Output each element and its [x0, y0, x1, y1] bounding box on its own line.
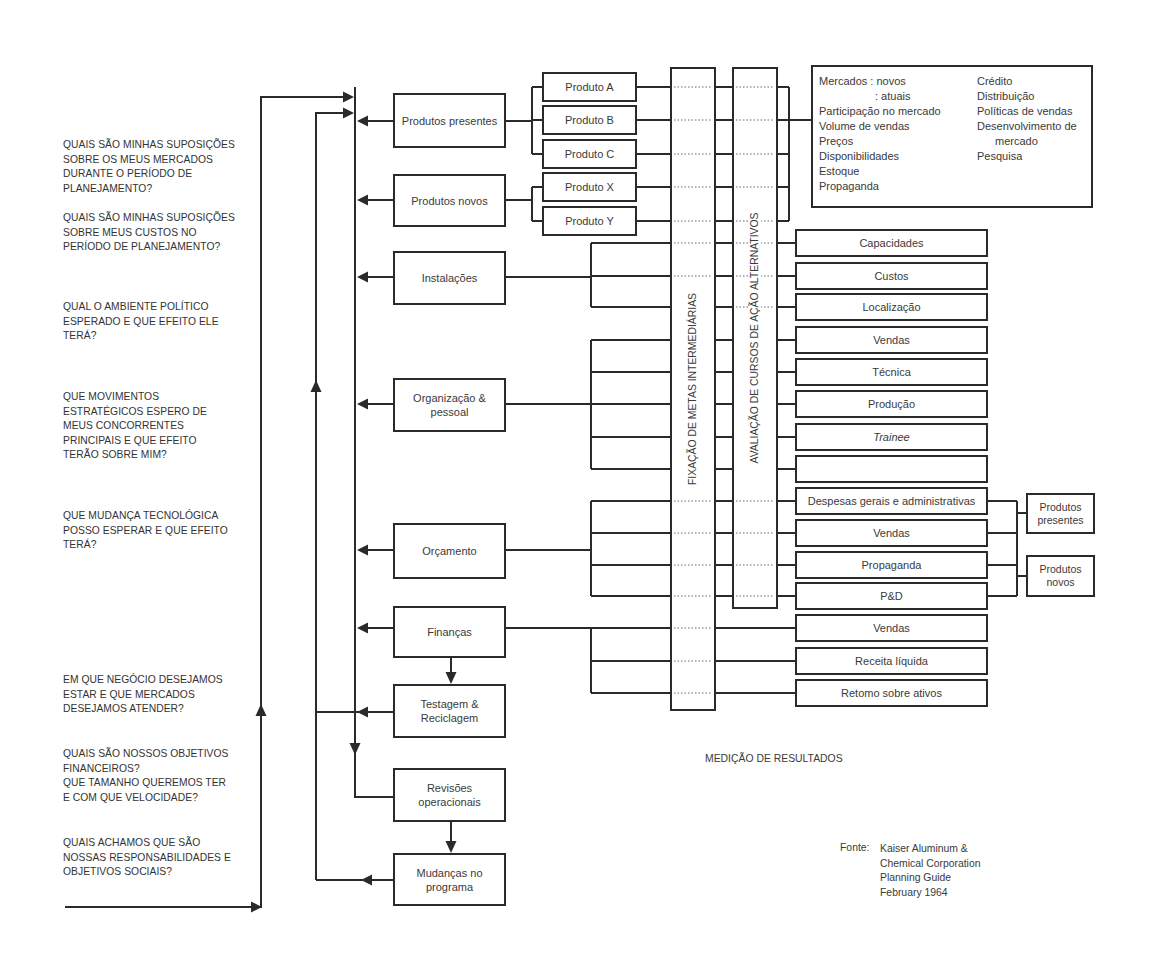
factor-item: Participação no mercado: [819, 104, 941, 119]
question-social-responsibilities: QUAIS ACHAMOS QUE SÃO NOSSAS RESPONSABIL…: [63, 836, 231, 880]
market-factors-right-column: Crédito Distribuição Políticas de vendas…: [977, 74, 1077, 164]
arrow-left-icon: [357, 272, 368, 283]
box-financas: Finanças: [393, 606, 506, 658]
factor-item: Volume de vendas: [819, 119, 941, 134]
goal-setting-column-label: FIXAÇÃO DE METAS INTERMEDIÁRIAS: [687, 290, 699, 488]
results-measurement-label: MEDIÇÃO DE RESULTADOS: [705, 753, 843, 764]
market-factors-left-column: Mercados : novos : atuais Participação n…: [819, 74, 941, 194]
box-produto-c: Produto C: [542, 139, 637, 169]
box-summary-produtos-presentes: Produtos presentes: [1026, 493, 1095, 534]
box-produtos-presentes: Produtos presentes: [393, 93, 506, 148]
arrow-left-icon: [357, 623, 368, 634]
box-summary-produtos-novos: Produtos novos: [1026, 555, 1095, 597]
factor-item: : atuais: [819, 89, 941, 104]
factor-item: Estoque: [819, 164, 941, 179]
arrow-down-icon: [350, 743, 361, 755]
factor-item: Pesquisa: [977, 149, 1077, 164]
planning-flow-diagram: QUAIS SÃO MINHAS SUPOSIÇÕES SOBRE OS MEU…: [0, 0, 1156, 975]
box-produto-x: Produto X: [542, 172, 637, 202]
box-capacidades: Capacidades: [795, 229, 988, 257]
box-orcamento: Orçamento: [393, 523, 506, 579]
box-testagem-reciclagem: Testagem & Reciclagem: [393, 684, 506, 738]
box-produto-a: Produto A: [542, 72, 637, 102]
box-mudancas-programa: Mudanças no programa: [393, 853, 506, 906]
evaluation-column-label: AVALIAÇÃO DE CURSOS DE AÇÃO ALTERNATIVOS: [749, 210, 761, 467]
arrow-up-icon: [311, 380, 322, 392]
question-technology: QUE MUDANÇA TECNOLÓGICA POSSO ESPERAR E …: [63, 509, 228, 553]
arrow-down-icon: [446, 841, 457, 853]
factor-item: Distribuição: [977, 89, 1077, 104]
box-producao: Produção: [795, 390, 988, 418]
box-propaganda: Propaganda: [795, 551, 988, 579]
box-revisoes-operacionais: Revisões operacionais: [393, 768, 506, 822]
arrow-left-icon: [357, 545, 368, 556]
box-vendas-financas: Vendas: [795, 614, 988, 642]
box-vendas-orcamento: Vendas: [795, 519, 988, 547]
factor-item: Crédito: [977, 74, 1077, 89]
question-markets: QUAIS SÃO MINHAS SUPOSIÇÕES SOBRE OS MEU…: [63, 138, 235, 196]
arrow-right-icon: [343, 92, 354, 103]
box-tecnica: Técnica: [795, 358, 988, 386]
box-organizacao-pessoal: Organização & pessoal: [393, 378, 506, 432]
factor-item: Propaganda: [819, 179, 941, 194]
source-label: Fonte:: [840, 842, 869, 853]
box-produto-b: Produto B: [542, 105, 637, 135]
box-receita-liquida: Receita líquida: [795, 647, 988, 675]
box-instalacoes: Instalações: [393, 251, 506, 305]
factor-item: Desenvolvimento de: [977, 119, 1077, 134]
question-political-environment: QUAL O AMBIENTE POLÍTICO ESPERADO E QUE …: [63, 300, 219, 344]
arrow-down-icon: [446, 672, 457, 684]
box-trainee: Trainee: [795, 423, 988, 451]
market-factors-box: Mercados : novos : atuais Participação n…: [811, 65, 1093, 208]
box-despesas-gerais: Despesas gerais e administrativas: [795, 487, 988, 515]
box-produtos-novos: Produtos novos: [393, 174, 506, 227]
arrow-up-icon: [256, 704, 267, 716]
arrow-left-icon: [361, 875, 372, 886]
box-custos: Custos: [795, 262, 988, 290]
question-competitors: QUE MOVIMENTOS ESTRATÉGICOS ESPERO DE ME…: [63, 390, 207, 463]
factor-item: Disponibilidades: [819, 149, 941, 164]
arrow-left-icon: [357, 195, 368, 206]
arrow-right-icon: [343, 108, 354, 119]
box-produto-y: Produto Y: [542, 206, 637, 236]
box-retorno-ativos: Retomo sobre ativos: [795, 679, 988, 707]
arrow-left-icon: [357, 399, 368, 410]
question-financial-objectives: QUAIS SÃO NOSSOS OBJETIVOS FINANCEIROS? …: [63, 747, 229, 805]
box-vendas-org: Vendas: [795, 326, 988, 354]
factor-item: Políticas de vendas: [977, 104, 1077, 119]
box-blank: [795, 455, 988, 483]
question-business: EM QUE NEGÓCIO DESEJAMOS ESTAR E QUE MER…: [63, 673, 223, 717]
factor-item: mercado: [977, 134, 1077, 149]
question-costs: QUAIS SÃO MINHAS SUPOSIÇÕES SOBRE MEUS C…: [63, 211, 235, 255]
arrow-left-icon: [357, 707, 368, 718]
factor-item: Preços: [819, 134, 941, 149]
box-localizacao: Localização: [795, 293, 988, 321]
arrow-left-icon: [357, 116, 368, 127]
box-pesquisa-desenvolvimento: P&D: [795, 582, 988, 610]
source-citation: Kaiser Aluminum & Chemical Corporation P…: [880, 842, 981, 901]
factor-item: Mercados : novos: [819, 74, 941, 89]
